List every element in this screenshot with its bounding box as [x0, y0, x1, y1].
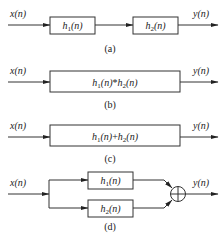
panel-d-parallel: x(n) h1(n) h2(n) y(n) (d)	[8, 172, 218, 233]
system-diagrams: x(n) h1(n) h2(n) y(n) (a) x(n) h1(n)*h2(…	[0, 0, 221, 242]
panel-b-convolution: x(n) h1(n)*h2(n) y(n) (b)	[8, 65, 218, 111]
input-label: x(n)	[9, 177, 27, 189]
panel-a-cascade: x(n) h1(n) h2(n) y(n) (a)	[8, 8, 218, 55]
upper-to-sum-arrow	[133, 180, 172, 188]
output-label: y(n)	[192, 120, 210, 132]
output-label: y(n)	[192, 177, 210, 189]
summing-junction-icon	[171, 187, 186, 202]
output-label: y(n)	[192, 8, 210, 20]
output-label: y(n)	[192, 65, 210, 77]
input-label: x(n)	[9, 65, 27, 77]
input-label: x(n)	[9, 8, 27, 20]
panel-c-sum: x(n) h1(n)+h2(n) y(n) (c)	[8, 120, 218, 165]
caption-d: (d)	[104, 221, 116, 233]
caption-a: (a)	[104, 43, 115, 55]
caption-b: (b)	[104, 99, 116, 111]
lower-to-sum-arrow	[133, 200, 172, 208]
input-label: x(n)	[9, 120, 27, 132]
caption-c: (c)	[104, 153, 115, 165]
